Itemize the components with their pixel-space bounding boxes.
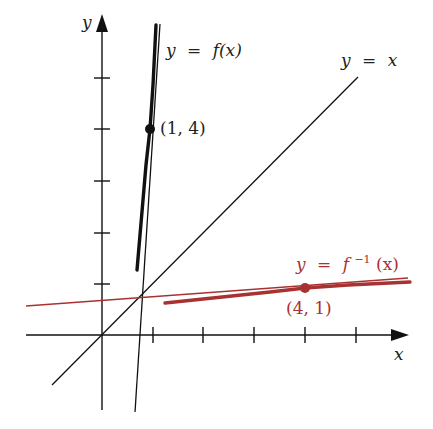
point-1-4-label: (1, 4) [160, 118, 206, 138]
finv-label: y = f −1 (x) [295, 247, 399, 274]
point-4-1-label: (4, 1) [286, 298, 332, 318]
finv-thin-line [26, 278, 408, 306]
x-axis-label: x [394, 344, 404, 364]
axes: y x [26, 12, 409, 410]
point-4-1 [300, 283, 310, 293]
inverse-function-diagram: y x y = f(x) y = x y = f −1 (x) (1, 4) (… [0, 0, 433, 429]
y-axis-label: y [81, 12, 92, 32]
point-1-4 [145, 124, 155, 134]
f-thin-line [135, 24, 160, 412]
x-axis-arrow-icon [391, 329, 409, 341]
identity-label: y = x [340, 50, 398, 70]
f-label: y = f(x) [165, 40, 242, 60]
y-axis-arrow-icon [96, 14, 108, 32]
